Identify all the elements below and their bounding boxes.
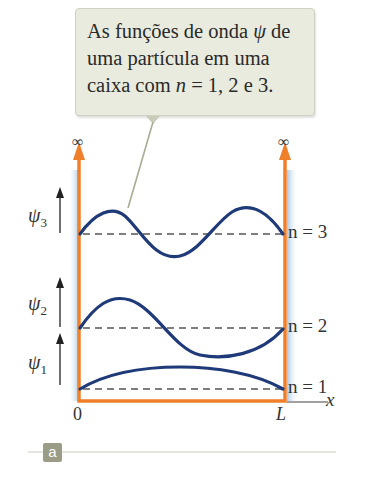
right-infinity-label: ∞ bbox=[278, 133, 289, 151]
level-label-n1: n = 1 bbox=[288, 376, 327, 398]
wavefunction-n1 bbox=[80, 367, 283, 389]
origin-label: 0 bbox=[73, 404, 82, 425]
psi1-arrow-head bbox=[56, 333, 64, 344]
psi3-label: ψ3 bbox=[28, 204, 47, 231]
psi2-label: ψ2 bbox=[28, 292, 47, 319]
box-length-label: L bbox=[276, 404, 286, 425]
level-label-n2: n = 2 bbox=[288, 315, 327, 337]
panel-tag: a bbox=[43, 443, 62, 462]
right-wall-shade bbox=[287, 170, 298, 401]
psi2-arrow-head bbox=[56, 277, 64, 288]
psi1-label: ψ1 bbox=[28, 351, 47, 378]
x-axis-label: x bbox=[326, 389, 334, 411]
callout-leader-line bbox=[128, 122, 153, 208]
level-label-n3: n = 3 bbox=[288, 221, 327, 243]
psi3-arrow-head bbox=[56, 187, 64, 198]
box-walls bbox=[79, 160, 285, 401]
particle-in-box-diagram bbox=[0, 0, 365, 487]
left-infinity-label: ∞ bbox=[72, 133, 83, 151]
wavefunction-n3 bbox=[80, 208, 283, 257]
